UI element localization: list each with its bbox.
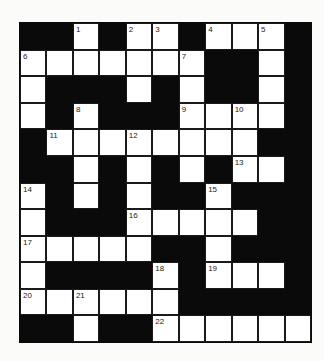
answer-square[interactable]: 16 [126,209,152,236]
block-square [232,183,258,210]
answer-square[interactable]: 2 [126,23,152,50]
answer-square[interactable] [152,129,178,156]
block-square [285,236,311,263]
answer-square[interactable] [205,129,231,156]
answer-square[interactable]: 17 [20,236,46,263]
answer-square[interactable] [232,23,258,50]
answer-square[interactable] [73,236,99,263]
answer-square[interactable]: 3 [152,23,178,50]
answer-square[interactable] [258,76,284,103]
clue-number: 18 [155,264,164,273]
answer-square[interactable] [46,236,72,263]
answer-square[interactable] [205,236,231,263]
block-square [285,76,311,103]
answer-square[interactable] [232,315,258,342]
clue-number: 7 [182,52,186,61]
answer-square[interactable] [126,50,152,77]
block-square [99,23,125,50]
answer-square[interactable] [126,289,152,316]
answer-square[interactable] [232,262,258,289]
clue-number: 1 [76,25,80,34]
answer-square[interactable]: 18 [152,262,178,289]
block-square [285,183,311,210]
block-square [152,103,178,130]
answer-square[interactable]: 4 [205,23,231,50]
answer-square[interactable] [179,315,205,342]
block-square [285,50,311,77]
answer-square[interactable]: 9 [179,103,205,130]
answer-square[interactable] [99,289,125,316]
answer-square[interactable]: 11 [46,129,72,156]
block-square [285,103,311,130]
answer-square[interactable] [258,103,284,130]
block-square [179,262,205,289]
answer-square[interactable] [258,156,284,183]
answer-square[interactable] [152,209,178,236]
clue-number: 2 [129,25,133,34]
answer-square[interactable] [99,236,125,263]
answer-square[interactable]: 22 [152,315,178,342]
answer-square[interactable] [46,289,72,316]
block-square [46,262,72,289]
clue-number: 10 [235,105,244,114]
answer-square[interactable] [73,129,99,156]
answer-square[interactable] [73,50,99,77]
answer-square[interactable] [152,289,178,316]
answer-square[interactable] [99,50,125,77]
answer-square[interactable] [46,50,72,77]
answer-square[interactable] [20,262,46,289]
answer-square[interactable] [20,103,46,130]
answer-square[interactable]: 7 [179,50,205,77]
clue-number: 14 [23,185,32,194]
answer-square[interactable]: 1 [73,23,99,50]
answer-square[interactable] [73,156,99,183]
clue-number: 5 [261,25,265,34]
answer-square[interactable]: 21 [73,289,99,316]
answer-square[interactable] [126,236,152,263]
answer-square[interactable] [232,209,258,236]
block-square [285,209,311,236]
answer-square[interactable]: 15 [205,183,231,210]
answer-square[interactable] [73,315,99,342]
answer-square[interactable] [205,315,231,342]
answer-square[interactable] [205,103,231,130]
answer-square[interactable] [73,183,99,210]
answer-square[interactable] [99,129,125,156]
answer-square[interactable] [285,315,311,342]
answer-square[interactable] [232,129,258,156]
answer-square[interactable] [179,76,205,103]
block-square [205,156,231,183]
answer-square[interactable] [20,209,46,236]
answer-square[interactable]: 14 [20,183,46,210]
answer-square[interactable] [152,50,178,77]
answer-square[interactable] [258,262,284,289]
clue-number: 17 [23,238,32,247]
answer-square[interactable] [179,156,205,183]
answer-square[interactable]: 5 [258,23,284,50]
block-square [46,209,72,236]
block-square [99,262,125,289]
answer-square[interactable]: 20 [20,289,46,316]
answer-square[interactable] [20,76,46,103]
answer-square[interactable]: 12 [126,129,152,156]
answer-square[interactable]: 8 [73,103,99,130]
answer-square[interactable]: 10 [232,103,258,130]
answer-square[interactable]: 19 [205,262,231,289]
answer-square[interactable] [205,209,231,236]
answer-square[interactable]: 6 [20,50,46,77]
clue-number: 9 [182,105,186,114]
answer-square[interactable] [258,315,284,342]
block-square [258,129,284,156]
answer-square[interactable] [179,129,205,156]
answer-square[interactable]: 13 [232,156,258,183]
clue-number: 4 [208,25,212,34]
answer-square[interactable] [126,76,152,103]
clue-number: 11 [49,131,57,140]
clue-number: 15 [208,185,217,194]
answer-square[interactable] [126,183,152,210]
answer-square[interactable] [258,50,284,77]
answer-square[interactable] [179,209,205,236]
answer-square[interactable] [126,156,152,183]
block-square [205,76,231,103]
block-square [285,289,311,316]
